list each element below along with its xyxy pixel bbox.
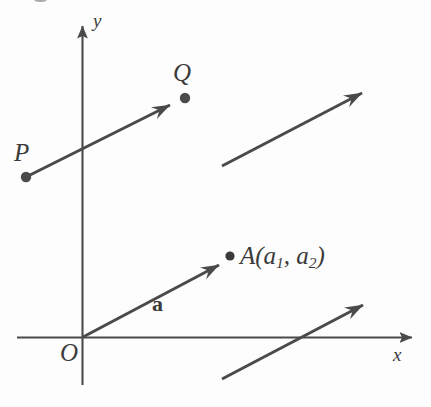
point-label-a-sub1: 1 bbox=[276, 254, 284, 271]
vector-copy-upper-right bbox=[222, 93, 362, 166]
point-label-a-head: A(a bbox=[240, 242, 276, 269]
point-label-p: P bbox=[14, 140, 29, 165]
vector-diagram-figure: y x O P Q a A(a1, a2) bbox=[0, 0, 431, 407]
point-label-a-separator: , a bbox=[284, 242, 309, 269]
origin-label: O bbox=[60, 340, 78, 365]
point-label-a-coordinates: A(a1, a2) bbox=[240, 243, 325, 271]
point-dot-a bbox=[225, 251, 234, 260]
vector-label-a: a bbox=[152, 293, 163, 315]
point-dot-p bbox=[21, 172, 31, 182]
y-axis-label: y bbox=[93, 11, 101, 30]
vector-a bbox=[83, 265, 219, 337]
vector-copy-lower-right bbox=[222, 305, 363, 379]
point-label-a-sub2: 2 bbox=[309, 254, 317, 271]
point-label-a-close: ) bbox=[317, 242, 325, 269]
vector-pq bbox=[26, 105, 170, 177]
point-label-q: Q bbox=[173, 60, 191, 85]
x-axis-label: x bbox=[393, 345, 401, 364]
point-dot-q bbox=[180, 93, 190, 103]
